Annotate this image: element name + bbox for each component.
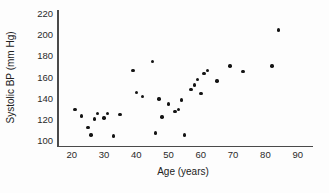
y-axis-title: Systolic BP (mm Hg)	[5, 7, 18, 149]
data-point	[131, 69, 134, 72]
x-tick-label: 90	[286, 150, 310, 160]
data-point	[160, 115, 163, 118]
data-point	[241, 70, 244, 73]
data-point	[106, 112, 109, 115]
x-axis-title: Age (years)	[118, 166, 248, 177]
x-tick-label: 70	[221, 150, 245, 160]
data-point	[228, 64, 231, 67]
data-point	[141, 95, 144, 98]
y-axis-line	[57, 10, 59, 146]
data-point	[157, 97, 160, 100]
data-point	[189, 88, 192, 91]
y-tick-label: 160	[21, 73, 53, 83]
data-point	[206, 69, 209, 72]
data-point	[154, 131, 157, 134]
data-point	[73, 108, 76, 111]
x-axis-line	[57, 146, 313, 148]
data-point	[112, 134, 115, 137]
data-point	[180, 98, 183, 101]
data-point	[183, 133, 186, 136]
data-point	[270, 64, 273, 67]
data-point	[167, 102, 170, 105]
data-point	[173, 110, 176, 113]
data-point	[135, 91, 138, 94]
x-tick-label: 30	[92, 150, 116, 160]
scatter-chart: Systolic BP (mm Hg) Age (years) 10012014…	[0, 0, 329, 193]
y-tick-label: 220	[21, 9, 53, 19]
data-point	[196, 78, 199, 81]
y-tick-label: 120	[21, 115, 53, 125]
data-point	[193, 83, 196, 86]
data-point	[89, 133, 92, 136]
x-tick-label: 60	[189, 150, 213, 160]
data-point	[102, 116, 105, 119]
x-tick-label: 20	[60, 150, 84, 160]
data-point	[202, 72, 205, 75]
x-tick-label: 80	[253, 150, 277, 160]
data-point	[177, 108, 180, 111]
x-tick-label: 50	[157, 150, 181, 160]
x-tick-label: 40	[124, 150, 148, 160]
y-tick-label: 100	[21, 136, 53, 146]
data-point	[80, 114, 83, 117]
data-point	[86, 126, 89, 129]
data-point	[151, 60, 154, 63]
y-tick-label: 180	[21, 51, 53, 61]
data-point	[215, 79, 218, 82]
data-point	[93, 117, 96, 120]
data-point	[277, 28, 280, 31]
data-point	[96, 112, 99, 115]
data-point	[199, 92, 202, 95]
data-point	[118, 113, 121, 116]
y-tick-label: 200	[21, 30, 53, 40]
y-tick-label: 140	[21, 94, 53, 104]
